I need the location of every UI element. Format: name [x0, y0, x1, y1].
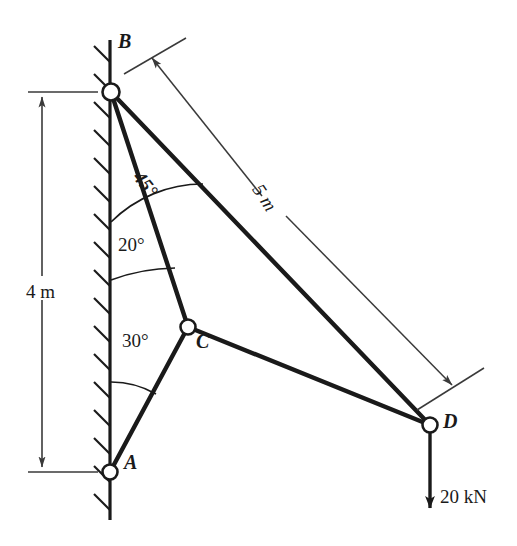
truss-members-group: [110, 92, 430, 472]
joint-label-D: D: [443, 410, 457, 433]
dimension-5m-group: [124, 38, 484, 410]
member-BC: [111, 92, 188, 327]
member-CD: [188, 327, 430, 425]
angle-label-20: 20°: [118, 234, 145, 256]
joint-label-C: C: [196, 330, 209, 353]
joint-A: [103, 465, 118, 480]
dimension-5m-arrow-upper: [152, 58, 262, 196]
truss-diagram: A B C D 45° 20° 30° 4 m 5 m 20 kN: [0, 0, 517, 546]
load-label-20kn: 20 kN: [440, 486, 487, 508]
angle-arcs-group: [110, 184, 203, 394]
angle-arc-20: [111, 268, 175, 280]
joints-group: [103, 84, 438, 480]
dimension-5m-extension-D: [417, 368, 484, 410]
joint-D: [423, 418, 438, 433]
dimension-5m-extension-B: [124, 38, 186, 74]
wall-hatching: [94, 46, 110, 510]
wall-group: [94, 40, 110, 520]
angle-arc-30: [110, 382, 156, 394]
truss-figure-canvas: [0, 0, 517, 546]
joint-C: [181, 320, 196, 335]
angle-label-30: 30°: [122, 330, 149, 352]
member-BD: [111, 92, 430, 425]
joint-B: [103, 84, 120, 101]
joint-label-B: B: [118, 30, 131, 53]
dimension-label-4m: 4 m: [26, 281, 55, 303]
joint-label-A: A: [124, 451, 137, 474]
